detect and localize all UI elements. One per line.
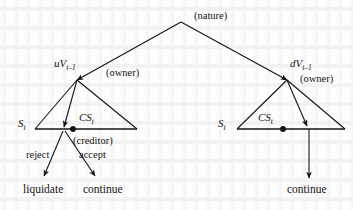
left-infoset-s-symbol: S	[18, 117, 24, 129]
edge-right-owner-right-side	[287, 80, 345, 129]
left-owner-state-symbol: uV	[54, 57, 66, 69]
left-information-set-node-dot	[70, 126, 76, 132]
left-infoset-cs-subscript: t	[92, 117, 94, 126]
right-infoset-cs-subscript: t	[271, 117, 273, 126]
right-owner-state-subscript: t–1	[302, 63, 312, 72]
right-infoset-s-subscript: t	[224, 123, 226, 132]
left-infoset-cs-symbol: CS	[79, 111, 92, 123]
left-owner-state-subscript: t–1	[66, 63, 76, 72]
nature-node-label: (nature)	[194, 11, 227, 22]
left-infoset-player-label: (creditor)	[73, 136, 113, 147]
outcome-label-left-continue: continue	[83, 184, 123, 196]
action-label-reject: reject	[26, 150, 49, 161]
right-owner-state-symbol: dV	[290, 57, 302, 69]
edge-nature-to-right-owner	[181, 22, 287, 80]
left-infoset-s-label: St	[18, 118, 26, 129]
left-infoset-s-subscript: t	[24, 123, 26, 132]
edge-right-owner-to-infoset	[287, 80, 307, 126]
outcome-label-liquidate: liquidate	[23, 184, 63, 196]
right-infoset-cs-symbol: CS	[258, 111, 271, 123]
right-owner-state-label: dVt–1	[290, 58, 312, 69]
left-infoset-cs-label: CSt	[79, 112, 94, 123]
left-owner-state-label: uVt–1	[54, 58, 76, 69]
outcome-label-right-continue: continue	[287, 184, 327, 196]
right-information-set-node-dot	[280, 126, 286, 132]
tree-edges-canvas	[0, 0, 353, 210]
game-tree-figure: (nature) uVt–1 (owner) dVt–1 (owner) St …	[0, 0, 353, 210]
right-owner-player-label: (owner)	[300, 74, 333, 85]
left-owner-player-label: (owner)	[106, 68, 139, 79]
right-infoset-s-label: St	[218, 118, 226, 129]
right-infoset-cs-label: CSt	[258, 112, 273, 123]
action-label-accept: accept	[79, 150, 106, 161]
right-infoset-s-symbol: S	[218, 117, 224, 129]
